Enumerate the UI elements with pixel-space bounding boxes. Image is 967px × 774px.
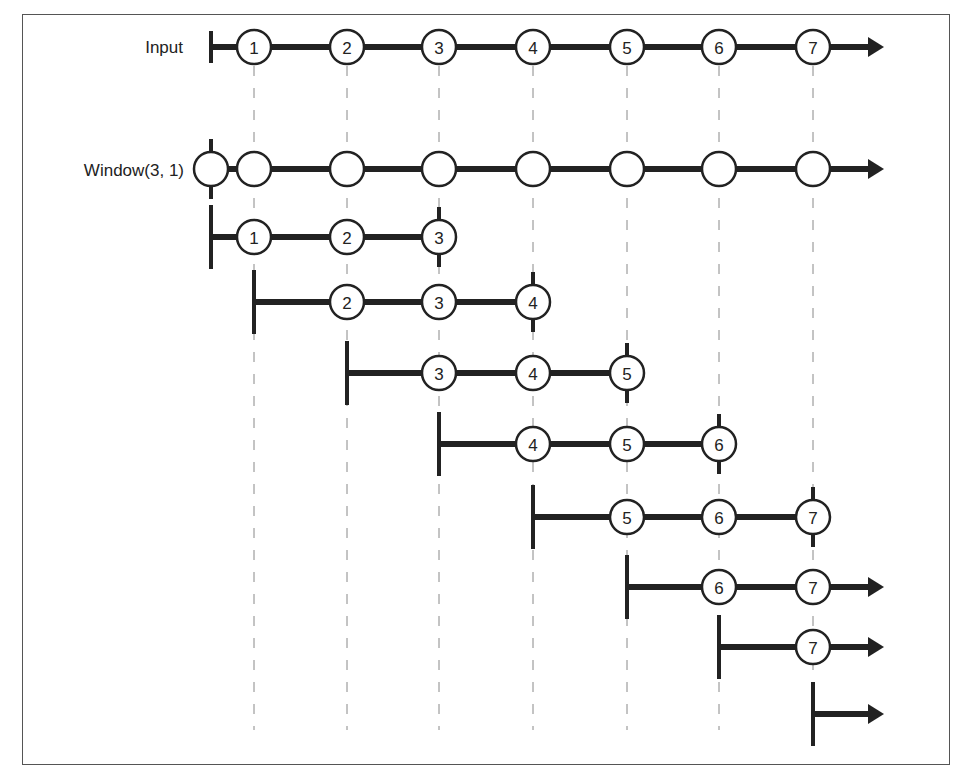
marble-value: 4: [528, 436, 537, 455]
marble-value: 6: [714, 579, 723, 598]
marble-value: 6: [714, 436, 723, 455]
marble-value: 7: [808, 39, 817, 58]
marble-value: 1: [249, 229, 258, 248]
marble-diagram: 1234567123234345456567677 Input Window(3…: [0, 0, 967, 774]
marbles: 1234567123234345456567677: [194, 30, 830, 664]
marble: [702, 152, 736, 186]
marble-value: 5: [622, 39, 631, 58]
marble: [516, 152, 550, 186]
marble: [330, 152, 364, 186]
arrowhead-icon: [868, 637, 884, 657]
marble-value: 6: [714, 39, 723, 58]
marble-value: 5: [622, 509, 631, 528]
window-stream: 567: [610, 500, 830, 534]
window-stream: 123: [237, 220, 456, 254]
marble: [237, 152, 271, 186]
window-stream: 345: [422, 356, 644, 390]
marble: [422, 152, 456, 186]
marble-value: 2: [342, 294, 351, 313]
marble-value: 6: [714, 509, 723, 528]
marble: [796, 152, 830, 186]
arrowhead-icon: [868, 577, 884, 597]
window-operator-label: Window(3, 1): [84, 161, 184, 180]
window-stream: 7: [796, 630, 830, 664]
arrowhead-icon: [868, 37, 884, 57]
marble-value: 2: [342, 39, 351, 58]
marble-value: 3: [434, 365, 443, 384]
arrowhead-icon: [868, 704, 884, 724]
window-stream: 456: [516, 427, 736, 461]
marble: [610, 152, 644, 186]
window-stream: 234: [330, 285, 550, 319]
marble: [194, 152, 228, 186]
marble-value: 4: [528, 39, 537, 58]
input-label: Input: [145, 38, 183, 57]
marble-value: 4: [528, 365, 537, 384]
marble-value: 1: [249, 39, 258, 58]
marble-value: 2: [342, 229, 351, 248]
marble-value: 7: [808, 509, 817, 528]
marble-value: 5: [622, 365, 631, 384]
marble-value: 3: [434, 294, 443, 313]
arrowhead-icon: [868, 159, 884, 179]
timelines: [211, 31, 884, 746]
marble-value: 7: [808, 639, 817, 658]
marble-value: 4: [528, 294, 537, 313]
marble-value: 3: [434, 39, 443, 58]
marble-value: 7: [808, 579, 817, 598]
marble-value: 3: [434, 229, 443, 248]
marble-value: 5: [622, 436, 631, 455]
